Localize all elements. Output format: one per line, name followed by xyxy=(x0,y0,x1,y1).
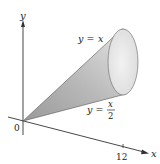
y-axis xyxy=(21,20,25,135)
y-axis-label: y xyxy=(19,10,26,21)
x-axis xyxy=(8,117,149,154)
x-tick-label: 12 xyxy=(116,152,127,162)
origin-label: 0 xyxy=(14,123,20,133)
diagram-canvas: y 0 12 x y = x y = x 2 xyxy=(0,0,160,164)
upper-label-lhs: y = xyxy=(77,33,94,44)
x-axis-arrow-icon xyxy=(141,150,149,155)
upper-label-rhs: x xyxy=(98,33,104,44)
lower-label-denominator: 2 xyxy=(108,111,113,121)
cone-diagram: y 0 12 x y = x y = x 2 xyxy=(0,0,160,164)
cone-opening xyxy=(108,29,138,95)
upper-curve-label: y = x xyxy=(77,33,104,44)
lower-label-lhs: y = xyxy=(86,104,103,115)
y-axis-arrow-icon xyxy=(21,20,25,27)
lower-label-numerator: x xyxy=(108,99,113,109)
x-axis-label: x xyxy=(151,148,157,159)
